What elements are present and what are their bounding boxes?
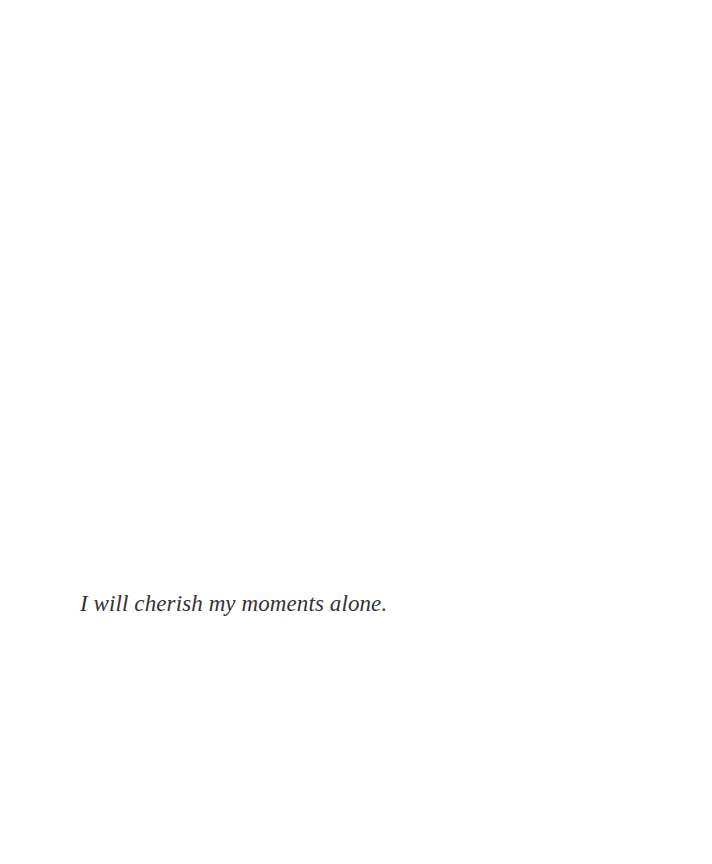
affirmation-text: I will cherish my moments alone. bbox=[80, 589, 387, 619]
document-page: I will cherish my moments alone. bbox=[0, 0, 712, 864]
